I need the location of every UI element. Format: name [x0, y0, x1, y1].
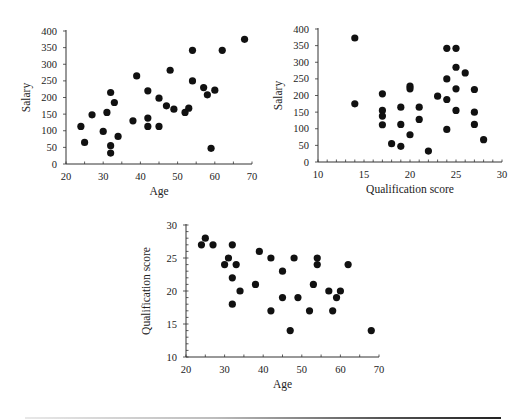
x-tick-label: 30: [219, 364, 230, 375]
data-point: [406, 85, 413, 92]
data-point: [351, 100, 358, 107]
y-tick-label: 30: [167, 220, 178, 231]
x-tick-label: 20: [61, 171, 72, 182]
data-point: [325, 287, 332, 294]
data-point: [185, 105, 192, 112]
data-point: [129, 117, 136, 124]
data-point: [452, 85, 459, 92]
data-point: [443, 45, 450, 52]
x-tick-label: 30: [497, 169, 508, 180]
x-tick-label: 70: [374, 364, 385, 375]
data-point: [204, 91, 211, 98]
y-tick-label: 150: [41, 109, 57, 120]
data-point: [256, 248, 263, 255]
data-point: [267, 307, 274, 314]
data-point: [416, 116, 423, 123]
scatter-age-vs-salary: 050100150200250300350400203040506070AgeS…: [20, 26, 257, 199]
x-axis-label: Age: [273, 378, 292, 391]
y-tick-label: 25: [167, 253, 178, 264]
data-point: [229, 241, 236, 248]
y-tick-label: 250: [293, 73, 309, 84]
data-point: [167, 67, 174, 74]
data-point: [368, 327, 375, 334]
data-point: [225, 254, 232, 261]
data-point: [452, 107, 459, 114]
y-tick-label: 150: [293, 107, 309, 118]
data-point: [471, 121, 478, 128]
data-point: [211, 87, 218, 94]
data-point: [480, 136, 487, 143]
y-tick-label: 300: [41, 59, 57, 70]
x-tick-label: 50: [297, 364, 308, 375]
data-point: [200, 84, 207, 91]
x-tick-label: 40: [258, 364, 269, 375]
data-point: [209, 241, 216, 248]
data-point: [236, 287, 243, 294]
x-axis-label: Age: [149, 185, 168, 198]
data-point: [189, 77, 196, 84]
y-tick-label: 400: [293, 24, 309, 35]
data-point: [267, 254, 274, 261]
data-point: [144, 115, 151, 122]
data-point: [333, 294, 340, 301]
data-point: [107, 89, 114, 96]
data-point: [133, 72, 140, 79]
x-tick-label: 15: [359, 169, 370, 180]
x-tick-label: 30: [98, 171, 109, 182]
data-point: [144, 123, 151, 130]
data-point: [114, 133, 121, 140]
data-point: [351, 34, 358, 41]
x-tick-label: 40: [135, 171, 146, 182]
data-point: [345, 261, 352, 268]
y-tick-label: 300: [293, 57, 309, 68]
data-point: [388, 140, 395, 147]
data-point: [233, 261, 240, 268]
scatter-age-vs-qualification: 1015202530203040506070AgeQualification s…: [140, 220, 384, 392]
x-tick-label: 20: [405, 169, 416, 180]
y-tick-label: 0: [304, 157, 309, 168]
y-tick-label: 400: [41, 26, 57, 37]
data-point: [443, 126, 450, 133]
y-axis-label: Salary: [20, 83, 33, 113]
x-tick-label: 50: [172, 171, 183, 182]
scatter-qualification-vs-salary: 0501001502002503003504001015202530Qualif…: [272, 24, 507, 196]
y-axis-label: Salary: [272, 81, 285, 111]
x-tick-label: 10: [313, 169, 324, 180]
data-point: [81, 139, 88, 146]
data-point: [416, 104, 423, 111]
y-tick-label: 20: [167, 286, 178, 297]
data-point: [221, 261, 228, 268]
x-tick-label: 60: [210, 171, 221, 182]
data-point: [202, 235, 209, 242]
data-point: [198, 241, 205, 248]
x-tick-label: 70: [247, 171, 258, 182]
y-tick-label: 200: [293, 90, 309, 101]
data-point: [379, 90, 386, 97]
data-point: [314, 261, 321, 268]
bottom-divider: [25, 417, 501, 419]
data-point: [279, 268, 286, 275]
x-tick-label: 25: [451, 169, 462, 180]
y-tick-label: 50: [47, 142, 58, 153]
data-point: [337, 287, 344, 294]
data-point: [290, 254, 297, 261]
data-point: [219, 47, 226, 54]
data-point: [471, 109, 478, 116]
data-point: [434, 93, 441, 100]
data-point: [379, 121, 386, 128]
data-point: [229, 274, 236, 281]
y-tick-label: 10: [167, 352, 178, 363]
data-point: [77, 123, 84, 130]
figure-canvas: 050100150200250300350400203040506070AgeS…: [0, 0, 532, 420]
data-point: [100, 128, 107, 135]
data-point: [229, 301, 236, 308]
data-point: [88, 111, 95, 118]
data-point: [170, 106, 177, 113]
data-point: [443, 96, 450, 103]
data-point: [144, 87, 151, 94]
data-point: [189, 47, 196, 54]
data-point: [107, 142, 114, 149]
data-point: [443, 75, 450, 82]
data-point: [314, 254, 321, 261]
data-point: [379, 113, 386, 120]
